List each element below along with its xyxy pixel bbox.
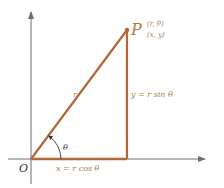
horizontal-leg-label: x = r cos θ (56, 164, 100, 173)
point-label: P (130, 20, 142, 39)
vertical-leg-label: y = r sin θ (130, 90, 173, 99)
polar-coordinates-diagram: O P (r, θ) (x, y) r θ x = r cos θ y = r … (0, 0, 224, 188)
origin-label: O (19, 162, 28, 175)
angle-arc (49, 136, 61, 159)
polar-coords-label: (r, θ) (147, 20, 164, 28)
hypotenuse-r (31, 30, 127, 159)
cartesian-coords-label: (x, y) (147, 31, 165, 39)
point-p-dot (125, 28, 129, 32)
angle-label: θ (63, 143, 68, 152)
